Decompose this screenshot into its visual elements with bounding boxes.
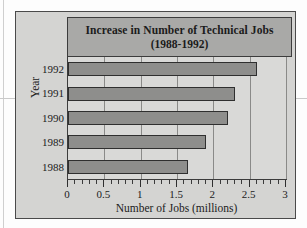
x-minor-tick	[256, 180, 257, 184]
chart-title-line-2: (1988-1992)	[151, 37, 209, 51]
x-major-tick	[140, 180, 141, 187]
x-major-tick	[103, 180, 104, 187]
x-minor-tick	[198, 180, 199, 184]
x-axis-tick-label: 3	[282, 188, 288, 200]
x-axis-tick-marks	[67, 180, 286, 187]
x-minor-tick	[161, 180, 162, 184]
chart-page: Increase in Number of Technical Jobs (19…	[0, 0, 307, 228]
y-axis-label-1988: 1988	[42, 155, 64, 179]
bar-1991	[68, 87, 235, 101]
y-axis-label-1989: 1989	[42, 130, 64, 154]
x-minor-tick	[241, 180, 242, 184]
chart-title-line-1: Increase in Number of Technical Jobs	[85, 23, 273, 37]
x-minor-tick	[74, 180, 75, 184]
x-minor-tick	[132, 180, 133, 184]
x-minor-tick	[234, 180, 235, 184]
x-minor-tick	[118, 180, 119, 184]
x-minor-tick	[205, 180, 206, 184]
bar-row: 1991	[68, 81, 286, 105]
x-minor-tick	[147, 180, 148, 184]
bar-row: 1990	[68, 106, 286, 130]
y-axis-label-1992: 1992	[42, 57, 64, 81]
bar-1992	[68, 62, 257, 76]
x-axis-tick-label: 0	[64, 188, 70, 200]
chart-panel: Increase in Number of Technical Jobs (19…	[15, 11, 296, 219]
y-axis-label-1990: 1990	[42, 106, 64, 130]
x-minor-tick	[183, 180, 184, 184]
y-axis-label-1991: 1991	[42, 81, 64, 105]
bar-1988	[68, 160, 188, 174]
y-axis-title: Year	[29, 77, 41, 98]
x-axis-tick-label: 2	[210, 188, 216, 200]
x-minor-tick	[89, 180, 90, 184]
bar-row: 1989	[68, 130, 286, 154]
x-minor-tick	[263, 180, 264, 184]
x-minor-tick	[220, 180, 221, 184]
x-major-tick	[285, 180, 286, 187]
x-axis-title: Number of Jobs (millions)	[67, 202, 286, 214]
x-minor-tick	[125, 180, 126, 184]
x-axis-tick-label: 0.5	[96, 188, 110, 200]
x-minor-tick	[169, 180, 170, 184]
bar-row: 1992	[68, 57, 286, 81]
chart-title-band: Increase in Number of Technical Jobs (19…	[67, 17, 292, 57]
x-minor-tick	[191, 180, 192, 184]
bar-1990	[68, 111, 228, 125]
x-major-tick	[67, 180, 68, 187]
gridline	[286, 57, 287, 179]
x-minor-tick	[270, 180, 271, 184]
plot-area: 19921991199019891988	[67, 57, 287, 180]
x-major-tick	[176, 180, 177, 187]
bar-1989	[68, 135, 206, 149]
x-axis-tick-label: 1.5	[169, 188, 183, 200]
x-minor-tick	[111, 180, 112, 184]
x-minor-tick	[227, 180, 228, 184]
x-axis-tick-label: 2.5	[242, 188, 256, 200]
x-axis-tick-label: 1	[137, 188, 143, 200]
scan-artifact-vertical-line	[3, 0, 4, 228]
bar-row: 1988	[68, 155, 286, 179]
x-minor-tick	[82, 180, 83, 184]
x-minor-tick	[154, 180, 155, 184]
x-minor-tick	[96, 180, 97, 184]
x-axis-tick-labels: 00.511.522.53	[67, 188, 286, 202]
x-major-tick	[249, 180, 250, 187]
x-minor-tick	[278, 180, 279, 184]
x-major-tick	[212, 180, 213, 187]
